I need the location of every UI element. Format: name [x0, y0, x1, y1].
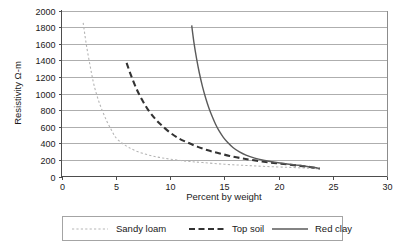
x-tick-label-10: 10 [165, 182, 175, 192]
x-axis-title: Percent by weight [186, 191, 262, 202]
y-tick-label-400: 400 [40, 139, 55, 149]
resistivity-vs-percent-by-weight-chart: 0200400600800100012001400160018002000 05… [0, 0, 403, 249]
y-tick-label-800: 800 [40, 106, 55, 116]
y-tick-label-0: 0 [50, 173, 55, 183]
x-tick-label-5: 5 [114, 182, 119, 192]
x-tick-label-0: 0 [60, 182, 65, 192]
y-axis-title: Resistivity Ω-m [12, 61, 23, 125]
chart-background [0, 0, 403, 249]
y-tick-label-200: 200 [40, 156, 55, 166]
y-tick-label-600: 600 [40, 123, 55, 133]
y-tick-label-1800: 1800 [35, 23, 55, 33]
y-tick-label-2000: 2000 [35, 7, 55, 17]
x-tick-label-25: 25 [328, 182, 338, 192]
legend-label-red-clay: Red clay [315, 223, 352, 234]
x-tick-label-20: 20 [274, 182, 284, 192]
y-tick-label-1200: 1200 [35, 73, 55, 83]
y-tick-label-1600: 1600 [35, 40, 55, 50]
legend-label-sandy-loam: Sandy loam [116, 223, 166, 234]
y-tick-label-1000: 1000 [35, 90, 55, 100]
x-tick-label-30: 30 [382, 182, 392, 192]
legend-label-top-soil: Top soil [232, 223, 264, 234]
x-tick-label-15: 15 [219, 182, 229, 192]
y-tick-label-1400: 1400 [35, 56, 55, 66]
chart-figure: 0200400600800100012001400160018002000 05… [0, 0, 403, 249]
